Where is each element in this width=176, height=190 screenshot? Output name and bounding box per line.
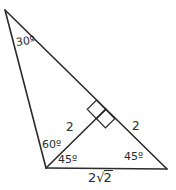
triangle-figure xyxy=(0,0,176,190)
right-angle-marker-upper xyxy=(87,100,105,118)
base-coefficient: 2 xyxy=(88,170,96,185)
angle-label-apex-30: 30º xyxy=(15,34,36,48)
angle-label-bottom-left-60: 60º xyxy=(42,139,61,150)
geometry-diagram: 30º 60º 45º 45º 2 2 2√2 xyxy=(0,0,176,190)
base-edge-line xyxy=(46,168,167,169)
side-label-base-two-root-two: 2√2 xyxy=(88,170,113,184)
side-label-cevian-2: 2 xyxy=(66,121,74,133)
radical-expression: 2√2 xyxy=(88,170,113,184)
angle-label-bottom-left-45: 45º xyxy=(58,154,77,165)
angle-label-bottom-right-45: 45º xyxy=(124,151,143,162)
base-radicand: 2 xyxy=(104,170,113,184)
side-label-right-2: 2 xyxy=(132,120,140,132)
right-angle-marker-lower xyxy=(96,109,114,127)
